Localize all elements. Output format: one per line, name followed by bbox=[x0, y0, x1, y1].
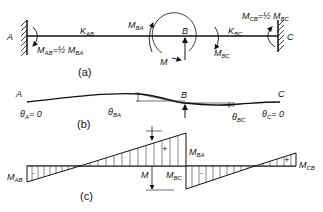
label-theta-c: θC= 0 bbox=[262, 109, 284, 120]
label-a: A bbox=[6, 32, 13, 42]
caption-a: (a) bbox=[78, 66, 91, 78]
sign-1: - bbox=[32, 168, 35, 178]
label-m-ba: MBA bbox=[128, 20, 144, 31]
label-m-cb-c: MCB bbox=[299, 160, 315, 171]
panel-b: A θA= 0 θBA B θBC C θC= 0 (b) bbox=[15, 89, 285, 130]
label-m-cb: MCB=½ MBC bbox=[242, 11, 290, 22]
tangent-ba bbox=[135, 93, 185, 104]
continuous-beam-diagram: A KAB MAB=½ MBA MBA B M KBC MBC MCB=½ MB… bbox=[0, 0, 323, 212]
label-k-bc: KBC bbox=[228, 26, 243, 37]
label-theta-ba: θBA bbox=[108, 107, 121, 118]
sign-3: - bbox=[200, 168, 203, 178]
deflected-shape bbox=[27, 94, 280, 106]
label-c-b: C bbox=[278, 89, 285, 99]
applied-moment-arrow-icon bbox=[172, 58, 181, 60]
panel-c: MAB - + MBA M MBC - + MCB (c) bbox=[7, 126, 315, 202]
label-m-total: M bbox=[141, 170, 149, 180]
label-m-ab-c: MAB bbox=[7, 172, 23, 183]
label-b-b: B bbox=[181, 90, 187, 100]
sign-4: + bbox=[284, 155, 289, 165]
label-a-b: A bbox=[15, 89, 22, 99]
label-b: B bbox=[182, 26, 188, 36]
label-k-ab: KAB bbox=[80, 26, 94, 37]
label-c: C bbox=[287, 32, 294, 42]
label-theta-a: θA= 0 bbox=[20, 109, 42, 120]
moment-arrow-bc-icon bbox=[215, 27, 219, 49]
moment-region-bc bbox=[186, 166, 255, 189]
fixed-support-right-icon bbox=[278, 20, 284, 52]
moment-arrow-cb-icon bbox=[268, 27, 275, 47]
panel-a: A KAB MAB=½ MBA MBA B M KBC MBC MCB=½ MB… bbox=[6, 11, 294, 78]
label-m-bc: MBC bbox=[214, 48, 231, 59]
sign-2: + bbox=[162, 144, 167, 154]
label-m-ab: MAB=½ MBA bbox=[37, 45, 83, 56]
label-theta-bc: θBC bbox=[232, 112, 246, 123]
caption-c: (c) bbox=[80, 190, 93, 202]
fixed-support-left-icon bbox=[21, 20, 27, 56]
applied-moment-circle-icon bbox=[152, 13, 196, 53]
label-m-applied: M bbox=[160, 57, 168, 67]
label-m-bc-c: MBC bbox=[166, 170, 183, 181]
caption-b: (b) bbox=[77, 118, 90, 130]
label-m-ba-c: MBA bbox=[189, 147, 205, 158]
moment-region-cb bbox=[255, 153, 296, 166]
